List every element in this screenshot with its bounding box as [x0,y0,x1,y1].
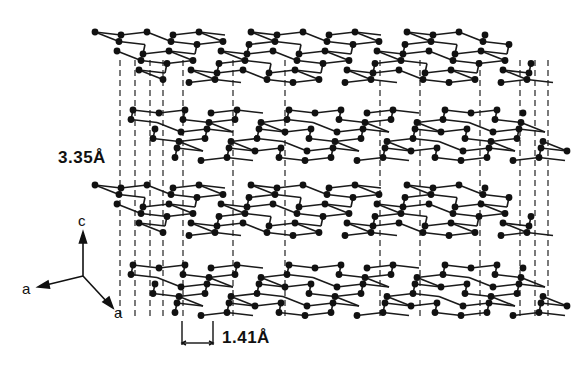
interlayer-spacing-label: 3.35Å [58,148,106,168]
layer-1 [92,29,553,86]
bond-length-label: 1.41Å [222,328,270,348]
axis-a2-label: a [114,304,122,321]
layer-2 [128,107,571,164]
layer-3 [92,182,553,239]
graphite-structure-diagram [0,0,581,369]
axis-a1-label: a [22,280,30,297]
axis-c-label: c [78,212,86,229]
layer-4 [128,262,571,319]
crystal-axes [38,232,113,308]
bond-length-bracket [182,321,213,345]
